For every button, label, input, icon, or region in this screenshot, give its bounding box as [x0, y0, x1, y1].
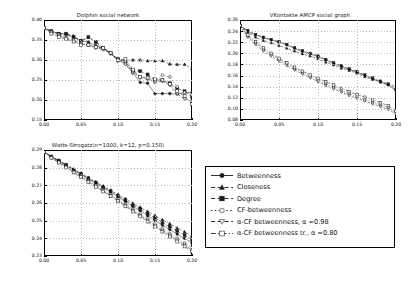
y-axis-tick-label: 0.16 [219, 73, 238, 78]
x-axis-tick [396, 118, 397, 121]
x-axis-tick [192, 254, 193, 257]
x-axis-tick-label: 0.10 [109, 122, 127, 127]
x-axis-tick [155, 254, 156, 257]
x-axis-tick-label: 0.05 [270, 122, 288, 127]
series-layer-dolphin [22, 12, 194, 134]
y-axis-tick [240, 53, 243, 54]
y-axis-tick [44, 150, 47, 151]
legend-label: Closeness [235, 183, 270, 191]
x-axis-tick-label: 0.20 [387, 122, 405, 127]
multi-panel-figure: Dolphin social network 0.150.200.250.300… [0, 0, 410, 284]
legend-symbol-alpha-cf-betweenness-tr [209, 228, 235, 239]
x-axis-tick-label: 0.15 [348, 122, 366, 127]
y-axis-tick-label: 0.20 [219, 51, 238, 56]
y-axis-tick-label: 0.29 [23, 147, 42, 152]
grid-line-vertical [81, 150, 82, 256]
legend-label: CF-betweenness [235, 206, 291, 214]
y-axis-tick-label: 0.24 [219, 29, 238, 34]
y-axis-tick [240, 109, 243, 110]
grid-line-vertical [81, 20, 82, 120]
x-axis-tick [155, 118, 156, 121]
y-axis-tick-label: 0.24 [23, 236, 42, 241]
y-axis-tick [44, 60, 47, 61]
y-axis-tick [44, 203, 47, 204]
x-axis-tick-label: 0.15 [146, 122, 164, 127]
y-axis-tick-label: 0.12 [219, 95, 238, 100]
y-axis-tick-label: 0.27 [23, 183, 42, 188]
y-axis-tick-label: 0.18 [219, 62, 238, 67]
y-axis-tick-label: 0.28 [23, 165, 42, 170]
x-axis-tick [118, 254, 119, 257]
legend-symbol-degree [209, 193, 235, 204]
y-axis-tick [240, 76, 243, 77]
x-axis-tick [357, 118, 358, 121]
y-axis-tick [44, 40, 47, 41]
y-axis-tick [44, 221, 47, 222]
y-axis-tick [240, 98, 243, 99]
x-axis-tick-label: 0.10 [309, 122, 327, 127]
y-axis-tick-label: 0.26 [219, 17, 238, 22]
legend-symbol-cf-betweenness [209, 205, 235, 216]
grid-line-vertical [118, 20, 119, 120]
y-axis-tick-label: 0.40 [23, 17, 42, 22]
grid-line-vertical [155, 150, 156, 256]
x-axis-tick [44, 118, 45, 121]
legend-label: Degree [235, 195, 261, 203]
x-axis-tick [44, 254, 45, 257]
x-axis-tick [81, 118, 82, 121]
y-axis-tick [240, 42, 243, 43]
legend-item: Closeness [209, 182, 389, 194]
y-axis-tick-label: 0.35 [23, 37, 42, 42]
y-axis-tick [44, 100, 47, 101]
y-axis-tick [240, 31, 243, 32]
grid-line-vertical [318, 20, 319, 120]
y-axis-tick [44, 238, 47, 239]
x-axis-tick-label: 0.05 [72, 258, 90, 263]
legend-item: Betweenness [209, 170, 389, 182]
x-axis-tick [279, 118, 280, 121]
y-axis-tick-label: 0.25 [23, 77, 42, 82]
x-axis-tick-label: 0.00 [35, 258, 53, 263]
y-axis-tick [44, 168, 47, 169]
y-axis-tick [240, 87, 243, 88]
y-axis-tick [240, 20, 243, 21]
chart-panel-watts-strogatz: Watts-Strogatz(n=1000, k=12, p=0.150) 0.… [22, 142, 194, 278]
series-legend: Betweenness Closeness Degree CF-betweenn… [205, 166, 395, 248]
chart-panel-vkontakte: VKontakte AMCP social graph 0.080.100.12… [216, 12, 404, 134]
x-axis-tick [81, 254, 82, 257]
grid-line-vertical [357, 20, 358, 120]
legend-label: Betweenness [235, 172, 281, 180]
x-axis-tick-label: 0.20 [183, 258, 201, 263]
x-axis-tick-label: 0.10 [109, 258, 127, 263]
y-axis-tick [44, 80, 47, 81]
y-axis-tick-label: 0.26 [23, 200, 42, 205]
y-axis-tick-label: 0.22 [219, 40, 238, 45]
x-axis-tick-label: 0.20 [183, 122, 201, 127]
y-axis-tick-label: 0.20 [23, 97, 42, 102]
y-axis-tick [44, 20, 47, 21]
x-axis-tick-label: 0.00 [35, 122, 53, 127]
x-axis-tick [318, 118, 319, 121]
y-axis-tick-label: 0.30 [23, 57, 42, 62]
y-axis-tick-label: 0.10 [219, 106, 238, 111]
legend-item: Degree [209, 193, 389, 205]
x-axis-tick [192, 118, 193, 121]
legend-label: α-CF betweenness, α =0.98 [235, 218, 329, 226]
x-axis-tick-label: 0.00 [231, 122, 249, 127]
x-axis-tick-label: 0.05 [72, 122, 90, 127]
legend-item: CF-betweenness [209, 205, 389, 217]
legend-symbol-alpha-cf-betweenness [209, 216, 235, 227]
x-axis-tick [240, 118, 241, 121]
grid-line-vertical [155, 20, 156, 120]
legend-symbol-betweenness [209, 170, 235, 181]
legend-label: α-CF betweenness tr., α =0.80 [235, 229, 338, 237]
y-axis-tick [240, 64, 243, 65]
grid-line-vertical [118, 150, 119, 256]
x-axis-tick [118, 118, 119, 121]
grid-line-vertical [279, 20, 280, 120]
chart-panel-dolphin: Dolphin social network 0.150.200.250.300… [22, 12, 194, 134]
legend-symbol-closeness [209, 182, 235, 193]
legend-item: α-CF betweenness, α =0.98 [209, 216, 389, 228]
legend-item: α-CF betweenness tr., α =0.80 [209, 228, 389, 240]
y-axis-tick-label: 0.14 [219, 84, 238, 89]
